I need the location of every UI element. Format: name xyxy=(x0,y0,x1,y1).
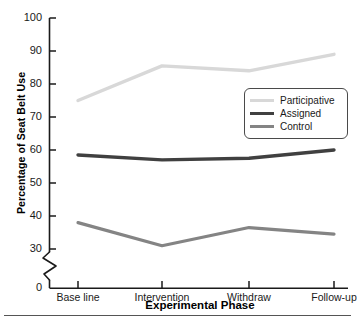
figure-bottom-rule xyxy=(4,315,351,316)
chart-legend: Participative Assigned Control xyxy=(244,88,348,139)
legend-swatch-assigned xyxy=(250,112,274,115)
y-axis-title: Percentage of Seat Belt Use xyxy=(15,63,27,223)
y-tick-100: 100 xyxy=(16,12,42,23)
y-axis-break-icon xyxy=(43,252,56,280)
legend-label-assigned: Assigned xyxy=(280,108,321,119)
y-axis-ticks xyxy=(50,18,57,249)
legend-swatch-participative xyxy=(250,99,274,102)
x-axis-ticks xyxy=(78,281,334,288)
legend-item-control: Control xyxy=(250,120,341,133)
series-line-control xyxy=(78,223,334,246)
x-axis-title: Experimental Phase xyxy=(45,299,355,311)
legend-item-assigned: Assigned xyxy=(250,107,341,120)
legend-label-control: Control xyxy=(280,121,312,132)
legend-item-participative: Participative xyxy=(250,94,341,107)
series-line-assigned xyxy=(78,150,334,160)
legend-swatch-control xyxy=(250,125,274,128)
y-tick-30: 30 xyxy=(16,243,42,254)
y-tick-90: 90 xyxy=(16,45,42,56)
legend-label-participative: Participative xyxy=(280,95,334,106)
